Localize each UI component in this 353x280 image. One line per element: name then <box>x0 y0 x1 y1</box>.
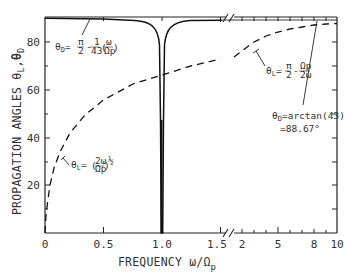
x-tick-8: 8 <box>311 238 318 251</box>
x-tick-0.5: 0.5 <box>94 238 114 251</box>
y-tick-80: 80 <box>27 36 40 49</box>
svg-text:=88.67°: =88.67° <box>280 123 320 134</box>
theta-l-dashed-curve-right <box>234 24 337 58</box>
y-tick-labels: 80 60 40 20 <box>27 36 40 192</box>
theta-d-solid-curve <box>45 18 222 233</box>
propagation-angle-chart: 80 60 40 20 0 0.5 1.0 1.5 2 5 8 10 FREQU… <box>0 0 353 280</box>
x-tick-0: 0 <box>42 238 49 251</box>
x-axis-title: FREQUENCY ω/Ωp <box>118 255 216 272</box>
anno-l-high-leader <box>256 51 265 66</box>
y-axis-title: PROPAGATION ANGLES θL,θD <box>10 48 26 215</box>
svg-text:θL=: θL= <box>266 65 282 78</box>
annotation-theta-d-low: θD= π 2 - 1 43 ( ω Ωp ) <box>55 36 119 56</box>
axis-break-marks <box>223 14 234 237</box>
theta-l-dashed-curve <box>45 59 221 233</box>
svg-text:2: 2 <box>286 69 292 80</box>
svg-text:-: - <box>293 65 299 76</box>
svg-text:½: ½ <box>108 155 114 166</box>
x-tick-5: 5 <box>275 238 282 251</box>
svg-text:2ω: 2ω <box>300 69 312 80</box>
annotation-theta-d-high: θD=arctan(43) =88.67° <box>272 110 345 134</box>
x-tick-1.5: 1.5 <box>207 238 227 251</box>
svg-text:): ) <box>113 42 119 53</box>
svg-text:θD=arctan(43): θD=arctan(43) <box>272 110 345 123</box>
y-tick-60: 60 <box>27 84 40 97</box>
annotation-theta-l-high: θL= π 2 - Ωp 2ω <box>266 60 312 80</box>
anno-l-low-leader <box>63 158 69 165</box>
x-tick-1.0: 1.0 <box>152 238 172 251</box>
y-tick-40: 40 <box>27 132 40 145</box>
svg-text:2: 2 <box>78 45 84 56</box>
anno-d-low-leader <box>82 19 90 35</box>
svg-text:θD=: θD= <box>55 41 71 54</box>
svg-text:θL=: θL= <box>71 159 87 172</box>
y-tick-20: 20 <box>27 179 40 192</box>
x-tick-2: 2 <box>239 238 246 251</box>
x-tick-10: 10 <box>330 238 343 251</box>
x-tick-labels: 0 0.5 1.0 1.5 2 5 8 10 <box>42 238 344 251</box>
annotation-theta-l-low: θL= ( 2ω Ωp ) ½ <box>71 155 114 174</box>
